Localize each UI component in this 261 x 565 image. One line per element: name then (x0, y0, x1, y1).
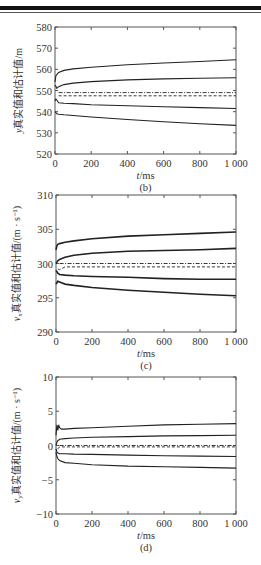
y-tick-label: 0 (48, 441, 53, 452)
y-tick-label: −10 (37, 509, 53, 520)
y-tick-label: 10 (43, 372, 54, 383)
series-line (56, 435, 236, 445)
series-line (58, 447, 236, 449)
x-tick-label: 1 000 (224, 518, 248, 529)
y-tick-label: −5 (42, 475, 53, 486)
series-line (56, 424, 236, 436)
figure-caption: (d) (140, 542, 153, 554)
x-tick-label: 600 (156, 518, 172, 529)
x-axis-label: t/ms (137, 530, 155, 541)
y-axis-label: vy真实值和估计值/(m · s⁻¹) (10, 388, 24, 503)
x-tick-label: 0 (53, 518, 58, 529)
x-tick-label: 200 (84, 518, 100, 529)
y-tick-label: 5 (48, 406, 53, 417)
series-line (56, 449, 236, 457)
chart-d: 02004006008001 000−10−50510t/ms(d)vy真实值和… (0, 0, 261, 565)
x-tick-label: 400 (120, 518, 136, 529)
x-tick-label: 800 (192, 518, 208, 529)
